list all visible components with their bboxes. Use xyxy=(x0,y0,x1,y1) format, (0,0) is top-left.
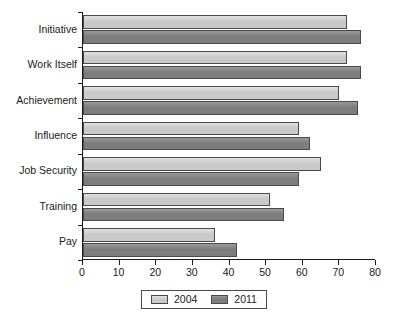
bar-2004-influence xyxy=(83,122,299,136)
y-axis-label-job-security: Job Security xyxy=(19,165,77,176)
bar-2011-training xyxy=(83,208,284,222)
y-axis-tick xyxy=(78,154,83,155)
bar-2004-training xyxy=(83,193,270,207)
legend-swatch-2011 xyxy=(211,295,228,304)
x-axis-tick xyxy=(155,260,156,265)
x-axis-label-40: 40 xyxy=(223,266,235,278)
bar-2011-work-itself xyxy=(83,66,361,80)
y-axis-tick xyxy=(78,189,83,190)
bar-2004-initiative xyxy=(83,15,347,29)
legend-label-2004: 2004 xyxy=(174,294,197,305)
x-axis-tick xyxy=(302,260,303,265)
bar-2011-achievement xyxy=(83,101,358,115)
bar-chart: InitiativeWork ItselfAchievementInfluenc… xyxy=(0,0,395,319)
bar-2011-job-security xyxy=(83,172,299,186)
y-axis-tick xyxy=(78,118,83,119)
y-axis-label-pay: Pay xyxy=(59,236,77,247)
x-axis-label-30: 30 xyxy=(186,266,198,278)
legend-item-2011: 2011 xyxy=(211,294,257,305)
x-axis-tick xyxy=(265,260,266,265)
bar-2011-influence xyxy=(83,137,310,151)
y-axis-label-initiative: Initiative xyxy=(38,24,77,35)
x-axis-label-20: 20 xyxy=(149,266,161,278)
x-axis-tick xyxy=(375,260,376,265)
x-axis: 01020304050607080 xyxy=(82,260,375,282)
chart-legend: 20042011 xyxy=(141,290,267,309)
y-axis-label-influence: Influence xyxy=(34,130,77,141)
y-axis-label-training: Training xyxy=(39,201,77,212)
legend-label-2011: 2011 xyxy=(234,294,257,305)
y-axis-tick xyxy=(78,83,83,84)
bar-2004-pay xyxy=(83,228,215,242)
y-axis-tick xyxy=(78,47,83,48)
x-axis-tick xyxy=(338,260,339,265)
bar-2011-initiative xyxy=(83,30,361,44)
y-axis-tick xyxy=(78,225,83,226)
legend-item-2004: 2004 xyxy=(151,294,197,305)
x-axis-tick xyxy=(82,260,83,265)
bar-2011-pay xyxy=(83,243,237,257)
bar-2004-job-security xyxy=(83,157,321,171)
x-axis-tick xyxy=(229,260,230,265)
x-axis-label-60: 60 xyxy=(296,266,308,278)
x-axis-tick xyxy=(192,260,193,265)
y-axis-label-achievement: Achievement xyxy=(16,95,77,106)
y-axis-label-work-itself: Work Itself xyxy=(28,59,77,70)
x-axis-label-80: 80 xyxy=(369,266,381,278)
x-axis-label-10: 10 xyxy=(113,266,125,278)
y-axis-tick xyxy=(78,12,83,13)
legend-swatch-2004 xyxy=(151,295,168,304)
x-axis-label-50: 50 xyxy=(259,266,271,278)
bar-2004-work-itself xyxy=(83,51,347,65)
x-axis-label-0: 0 xyxy=(79,266,85,278)
x-axis-label-70: 70 xyxy=(333,266,345,278)
bar-2004-achievement xyxy=(83,86,339,100)
x-axis-tick xyxy=(119,260,120,265)
plot-area xyxy=(82,12,375,260)
